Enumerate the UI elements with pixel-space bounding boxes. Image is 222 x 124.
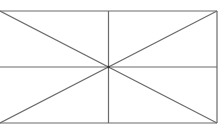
center-point [107,66,110,69]
diagram-canvas [0,0,222,124]
